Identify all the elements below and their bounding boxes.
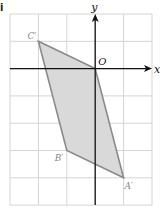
parallelogram [38, 41, 123, 178]
coordinate-diagram: x y O C′ B′ A′ [0, 0, 160, 210]
origin-label: O [98, 56, 106, 67]
y-axis-label: y [90, 1, 98, 14]
vertex-label-a: A′ [124, 181, 134, 191]
vertex-label-c: C′ [27, 31, 36, 41]
x-axis-label: x [154, 63, 160, 76]
vertex-label-b: B′ [54, 153, 64, 163]
